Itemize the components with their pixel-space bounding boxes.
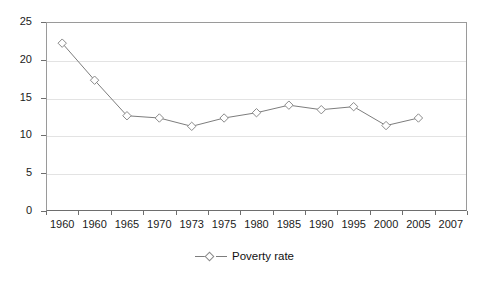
data-point-marker	[220, 114, 228, 122]
legend-line-marker-icon	[195, 251, 227, 262]
data-point-marker	[155, 114, 163, 122]
legend-entry-poverty-rate[interactable]: Poverty rate	[195, 250, 294, 262]
data-point-marker	[285, 101, 293, 109]
series-layer	[0, 0, 489, 282]
legend-label: Poverty rate	[232, 250, 294, 262]
data-point-marker	[252, 109, 260, 117]
data-point-marker	[349, 102, 357, 110]
data-point-marker	[317, 105, 325, 113]
poverty-rate-line-chart: 0510152025 19601960196519701973197519801…	[0, 0, 489, 282]
data-point-marker	[382, 121, 390, 129]
data-point-marker	[414, 114, 422, 122]
series-line	[62, 43, 418, 126]
data-point-marker	[188, 122, 196, 130]
chart-legend: Poverty rate	[0, 250, 489, 262]
